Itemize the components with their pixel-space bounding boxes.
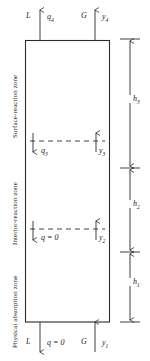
boundary3-q-sub: 3 [45, 151, 48, 157]
boundary2-y-sub: 2 [103, 238, 106, 244]
top-gas-value: y4 [102, 13, 108, 23]
bottom-liquid-value: q = 0 [47, 339, 64, 347]
top-liquid-value: q4 [47, 13, 54, 23]
boundary3-gas-value: y3 [99, 147, 105, 157]
top-gas-symbol: G [81, 12, 87, 20]
dimension-label-h2: h2 [133, 200, 140, 210]
boundary2-gas-value: y2 [99, 234, 105, 244]
top-gas-sub: 4 [106, 17, 109, 23]
top-liquid-symbol: L [26, 12, 30, 20]
boundary2-liquid-value: q = 0 [41, 234, 58, 242]
h3-sub: 3 [137, 99, 140, 105]
h2-sub: 2 [137, 204, 140, 210]
boundary3-liquid-value: q3 [41, 147, 48, 157]
dimension-label-h3: h3 [133, 95, 140, 105]
bottom-liquid-symbol: L [26, 338, 30, 346]
column-body [26, 41, 110, 323]
column-schematic [0, 0, 150, 361]
zone-label-physical-absorption: Physical absorption zone [11, 276, 19, 348]
top-liquid-sub: 4 [51, 17, 54, 23]
zone-label-surface-reaction: Surface-reaction zone [11, 75, 19, 138]
bottom-gas-value: y1 [102, 339, 108, 349]
h1-sub: 1 [137, 282, 140, 288]
boundary3-y-sub: 3 [103, 151, 106, 157]
dimension-label-h1: h1 [133, 278, 140, 288]
bottom-gas-sub: 1 [106, 343, 109, 349]
bottom-gas-symbol: G [81, 338, 87, 346]
zone-label-interior-reaction: Interior-reaction zone [11, 182, 19, 245]
